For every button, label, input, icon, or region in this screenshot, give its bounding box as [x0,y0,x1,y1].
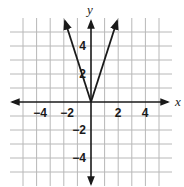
x-tick-label: 2 [115,106,122,120]
x-tick-label: 4 [142,106,149,120]
graph-left-branch [65,21,91,102]
y-tick-label: −2 [72,123,86,137]
y-tick-label: 2 [79,67,86,81]
y-tick-label: −4 [72,151,86,165]
y-tick-label: 4 [79,39,86,53]
x-tick-label: −2 [60,106,74,120]
graph-right-branch [91,21,117,102]
y-axis-label: y [85,2,93,17]
x-tick-label: −4 [33,106,47,120]
coordinate-plane: −4 −2 2 4 4 2 −2 −4 x y [0,0,184,187]
x-axis-label: x [174,94,181,109]
axes [12,21,168,184]
